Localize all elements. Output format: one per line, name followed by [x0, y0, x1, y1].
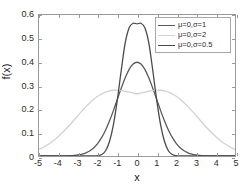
- y-tick-label: 0.3: [21, 81, 34, 90]
- legend: μ=0,σ=1μ=0,σ=2μ=0,σ=0.5: [155, 17, 231, 53]
- x-tick-label: -2: [93, 159, 101, 168]
- y-tick-mark-right: [232, 15, 235, 16]
- x-tick-label: -5: [34, 159, 42, 168]
- y-tick-mark: [39, 110, 42, 111]
- y-tick-mark-right: [232, 63, 235, 64]
- curve-series-1: [39, 62, 235, 156]
- x-tick-mark-top: [237, 15, 238, 18]
- y-tick-label: 0.2: [21, 105, 34, 114]
- x-tick-mark-top: [138, 15, 139, 18]
- curve-series-2: [39, 90, 235, 149]
- x-axis-label: x: [38, 172, 236, 183]
- x-tick-mark: [98, 153, 99, 156]
- x-tick-label: 1: [154, 159, 159, 168]
- x-tick-mark: [237, 153, 238, 156]
- x-tick-mark: [178, 153, 179, 156]
- x-tick-label: 4: [214, 159, 219, 168]
- x-tick-mark: [59, 153, 60, 156]
- normal-distribution-chart: 00.10.20.30.40.50.6 -5-4-3-2-1012345 x f…: [0, 0, 246, 192]
- legend-item-label: μ=0,σ=0.5: [178, 41, 212, 49]
- x-tick-mark: [138, 153, 139, 156]
- legend-line-swatch: [158, 25, 175, 26]
- y-tick-mark-right: [232, 110, 235, 111]
- legend-item: μ=0,σ=2: [158, 30, 227, 40]
- legend-item-label: μ=0,σ=1: [178, 21, 206, 29]
- x-tick-label: 3: [194, 159, 199, 168]
- x-tick-label: -3: [74, 159, 82, 168]
- x-tick-mark: [158, 153, 159, 156]
- x-tick-mark-top: [59, 15, 60, 18]
- legend-line-swatch: [158, 45, 175, 46]
- y-tick-label: 0.4: [21, 57, 34, 66]
- y-tick-mark-right: [232, 87, 235, 88]
- y-tick-label: 0.5: [21, 33, 34, 42]
- y-tick-label: 0.6: [21, 10, 34, 19]
- x-tick-mark: [118, 153, 119, 156]
- x-tick-label: 2: [174, 159, 179, 168]
- legend-item: μ=0,σ=0.5: [158, 40, 227, 50]
- y-tick-mark-right: [232, 39, 235, 40]
- legend-line-swatch: [158, 35, 175, 36]
- x-tick-mark: [39, 153, 40, 156]
- y-tick-mark: [39, 63, 42, 64]
- y-tick-mark: [39, 134, 42, 135]
- y-axis-label: f(x): [1, 42, 12, 102]
- legend-item: μ=0,σ=1: [158, 20, 227, 30]
- x-tick-mark-top: [118, 15, 119, 18]
- x-tick-mark: [197, 153, 198, 156]
- y-tick-mark-right: [232, 134, 235, 135]
- y-tick-mark: [39, 39, 42, 40]
- x-tick-mark-top: [98, 15, 99, 18]
- legend-item-label: μ=0,σ=2: [178, 31, 206, 39]
- y-tick-mark: [39, 87, 42, 88]
- y-tick-mark: [39, 15, 42, 16]
- x-tick-label: -1: [113, 159, 121, 168]
- x-tick-mark-top: [79, 15, 80, 18]
- x-tick-label: 0: [134, 159, 139, 168]
- y-tick-label: 0.1: [21, 129, 34, 138]
- x-tick-label: -4: [54, 159, 62, 168]
- x-tick-label: 5: [233, 159, 238, 168]
- x-tick-mark: [217, 153, 218, 156]
- x-tick-mark: [79, 153, 80, 156]
